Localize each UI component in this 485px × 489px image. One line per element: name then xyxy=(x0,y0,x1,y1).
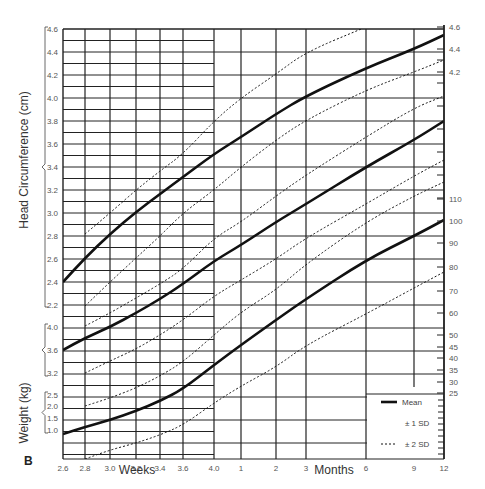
left-tick-label: 1.0 xyxy=(47,426,59,435)
x-tick-label: 2.6 xyxy=(57,464,69,473)
x-tick-label: 2 xyxy=(274,464,279,473)
right-tick-label: 110 xyxy=(449,195,462,204)
left-tick-label: 3.2 xyxy=(47,369,59,378)
months-axis-title: Months xyxy=(314,463,353,477)
growth-chart: 2.62.83.03.23.43.64.012369124.64.44.24.0… xyxy=(0,0,485,489)
legend-item-label: ± 2 SD xyxy=(405,440,430,449)
left-tick-label: 3.8 xyxy=(47,117,59,126)
left-tick-label: 4.6 xyxy=(47,25,59,34)
right-tick-label: 30 xyxy=(449,378,458,387)
left-tick-label: 1.5 xyxy=(47,414,59,423)
left-tick-label: 2.0 xyxy=(47,402,59,411)
right-tick-label: 60 xyxy=(449,309,458,318)
x-tick-label: 1 xyxy=(239,464,244,473)
left-tick-label: 3.2 xyxy=(47,186,59,195)
x-tick-label: 3.6 xyxy=(177,464,189,473)
left-tick-label: 4.2 xyxy=(47,71,59,80)
x-tick-label: 3.0 xyxy=(104,464,116,473)
panel-label: B xyxy=(24,454,33,468)
left-tick-label: 4.4 xyxy=(47,48,59,57)
right-tick-label: 90 xyxy=(449,239,458,248)
x-tick-label: 3.4 xyxy=(154,464,166,473)
legend-item-label: ± 1 SD xyxy=(405,419,430,428)
right-tick-label: 4.4 xyxy=(449,45,461,54)
left-tick-label: 3.4 xyxy=(47,163,59,172)
left-tick-label: 2.4 xyxy=(47,278,59,287)
left-tick-label: 3.6 xyxy=(47,346,59,355)
x-tick-label: 2.8 xyxy=(79,464,91,473)
right-tick-label: 80 xyxy=(449,263,458,272)
head-circumference-axis-title: Head Circumference (cm) xyxy=(17,91,31,228)
right-tick-label: 4.2 xyxy=(449,68,461,77)
right-tick-label: 25 xyxy=(449,389,458,398)
series-line-1 xyxy=(85,27,366,234)
left-tick-label: 3.0 xyxy=(47,209,59,218)
x-tick-label: 4.0 xyxy=(208,464,220,473)
right-tick-label: 50 xyxy=(449,331,458,340)
left-tick-label: 2.2 xyxy=(47,301,59,310)
x-tick-label: 6 xyxy=(364,464,369,473)
left-tick-label: 2.8 xyxy=(47,232,59,241)
left-tick-label: 2.5 xyxy=(47,391,59,400)
right-tick-label: 100 xyxy=(449,217,463,226)
left-tick-label: 4.0 xyxy=(47,323,59,332)
series-line-0 xyxy=(63,35,444,282)
left-tick-label: 2.6 xyxy=(47,255,59,264)
right-tick-label: 35 xyxy=(449,366,458,375)
series-line-5 xyxy=(85,160,444,373)
x-tick-label: 3 xyxy=(304,464,309,473)
weeks-axis-title: Weeks xyxy=(119,463,155,477)
chart-canvas: 2.62.83.03.23.43.64.012369124.64.44.24.0… xyxy=(0,0,485,489)
legend-item-label: Mean xyxy=(402,398,422,407)
right-tick-label: 4.6 xyxy=(449,23,461,32)
right-tick-label: 70 xyxy=(449,287,458,296)
right-tick-label: 45 xyxy=(449,343,458,352)
x-tick-label: 9 xyxy=(412,464,417,473)
series-line-2 xyxy=(85,60,444,306)
weight-axis-title: Weight (kg) xyxy=(17,382,31,443)
left-tick-label: 4.0 xyxy=(47,94,59,103)
x-tick-label: 12 xyxy=(440,464,449,473)
left-tick-label: 3.6 xyxy=(47,140,59,149)
right-tick-label: 40 xyxy=(449,354,458,363)
